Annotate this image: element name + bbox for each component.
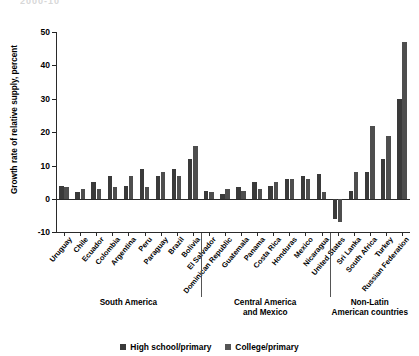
bar [365, 172, 369, 199]
bar [193, 146, 197, 199]
y-tick-label: 10 [22, 161, 50, 171]
group-separator [201, 233, 202, 297]
y-tick-label: 30 [22, 94, 50, 104]
bar [322, 192, 326, 199]
y-tick-label: -10 [22, 227, 50, 237]
bar [225, 189, 229, 199]
bar [349, 191, 353, 199]
bar [97, 189, 101, 199]
bar [172, 169, 176, 199]
bar [354, 172, 358, 199]
bar [317, 174, 321, 199]
bar [145, 187, 149, 199]
bar [397, 99, 401, 199]
bar [124, 186, 128, 199]
y-tick-label: 0 [22, 194, 50, 204]
bar [241, 191, 245, 199]
zero-baseline [56, 199, 410, 200]
bar [59, 186, 63, 199]
bar [81, 189, 85, 199]
group-label: Non-Latin American countries [310, 298, 419, 318]
bar [252, 182, 256, 199]
bar [386, 136, 390, 199]
legend-item: High school/primary [120, 342, 211, 352]
bar [402, 42, 406, 199]
bar [370, 126, 374, 199]
y-tick-label: 50 [22, 27, 50, 37]
legend-swatch [225, 344, 231, 350]
bar [204, 191, 208, 199]
bar [209, 192, 213, 199]
bar [306, 179, 310, 199]
legend-swatch [120, 344, 126, 350]
bar [161, 172, 165, 199]
legend-label: College/primary [235, 342, 298, 352]
bar [75, 192, 79, 199]
bar [177, 176, 181, 199]
chart-figure: 2000-10 Growth rate of relative supply, … [0, 0, 419, 356]
y-axis-title: Growth rate of relative supply, percent [10, 22, 19, 218]
bar [236, 187, 240, 199]
bar [333, 199, 337, 219]
bar [156, 176, 160, 199]
chart-legend: High school/primaryCollege/primary [0, 342, 419, 352]
bar [285, 179, 289, 199]
y-tick-label: 20 [22, 127, 50, 137]
legend-item: College/primary [225, 342, 298, 352]
bar [220, 194, 224, 199]
legend-label: High school/primary [130, 342, 211, 352]
bar [188, 159, 192, 199]
y-axis-line [56, 32, 57, 232]
bar [64, 187, 68, 199]
y-tick-label: 40 [22, 60, 50, 70]
bar [108, 176, 112, 199]
bar [91, 182, 95, 199]
bar [129, 176, 133, 199]
cropped-header-text: 2000-10 [20, 0, 60, 4]
bar [301, 176, 305, 199]
group-separator [330, 233, 331, 297]
bar [290, 179, 294, 199]
bar [381, 159, 385, 199]
x-axis-label-text: Uruguay [47, 235, 73, 264]
group-label: Central America and Mexico [205, 298, 325, 318]
group-label: South America [68, 298, 188, 308]
bar [140, 169, 144, 199]
bar [113, 187, 117, 199]
